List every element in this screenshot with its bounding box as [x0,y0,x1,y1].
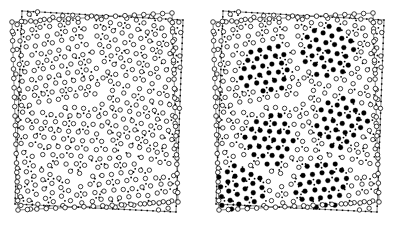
particle [127,153,131,157]
crystalline-particle [252,135,257,140]
crystalline-particle [257,73,262,78]
lattice-dot [72,19,74,21]
particle [63,105,67,109]
particle [116,82,120,86]
particle [158,160,162,164]
lattice-dot [23,66,25,68]
particle [227,87,231,91]
lattice-dot [356,157,358,159]
boundary-square-marker [379,141,381,143]
lattice-dot [31,122,33,124]
crystalline-particle [263,80,268,85]
particle [95,34,99,38]
crystalline-particle [307,180,312,185]
particle [35,34,39,38]
particle [152,108,156,112]
particle [231,125,235,129]
particle [15,22,19,26]
crystalline-particle [239,76,244,81]
crystalline-particle [225,169,230,174]
boundary-square-marker [371,211,373,213]
crystalline-particle [331,118,336,123]
boundary-particle [245,206,250,211]
boundary-particle [176,200,181,205]
particle [134,52,138,56]
particle [304,147,308,151]
lattice-dot [95,20,97,22]
lattice-dot [270,120,272,122]
particle [85,130,89,134]
crystalline-particle [322,187,327,192]
particle [292,174,296,178]
lattice-dot [318,138,320,140]
crystalline-particle [303,59,308,64]
particle [34,85,38,89]
lattice-dot [328,191,330,193]
lattice-dot [233,90,235,92]
boundary-particle [342,12,347,17]
lattice-dot [281,191,283,193]
particle [295,147,299,151]
lattice-dot [77,169,79,171]
lattice-dot [301,163,303,165]
particle [122,163,126,167]
particle [371,137,375,141]
boundary-particle [82,204,87,209]
particle [59,113,63,117]
boundary-square-marker [119,16,121,18]
particle [153,142,157,146]
particle [143,106,147,110]
lattice-dot [155,52,157,54]
particle [80,139,84,143]
particle [359,17,363,21]
crystalline-particle [326,100,331,105]
particle [26,36,30,40]
lattice-dot [232,122,234,124]
crystalline-particle [327,194,332,199]
lattice-dot [341,142,343,144]
lattice-dot [288,126,290,128]
lattice-dot [255,132,257,134]
lattice-dot [32,204,34,206]
particle [61,14,65,18]
crystalline-particle [244,83,249,88]
lattice-dot [120,167,122,169]
lattice-dot [220,94,222,96]
particle [297,165,301,169]
boundary-square-marker [222,10,224,12]
particle [20,110,24,114]
particle [251,41,255,45]
particle [47,163,51,167]
particle [307,70,311,74]
particle [78,86,82,90]
particle [355,176,359,180]
particle [30,28,34,32]
lattice-dot [248,40,250,42]
lattice-dot [24,107,26,109]
particle [142,202,146,206]
particle [130,186,134,190]
boundary-square-marker [221,51,223,53]
lattice-dot [224,200,226,202]
lattice-dot [261,34,263,36]
particle [221,30,225,34]
lattice-dot [375,103,377,105]
crystalline-particle [324,126,329,131]
lattice-dot [45,55,47,57]
boundary-square-marker [147,210,149,212]
particle [159,182,163,186]
lattice-dot [65,92,67,94]
boundary-particle [373,77,378,82]
boundary-square-marker [182,19,184,21]
particle [65,145,69,149]
particle [139,121,143,125]
lattice-dot [113,84,115,86]
particle [81,106,85,110]
boundary-square-marker [178,141,180,143]
lattice-dot [100,38,102,40]
lattice-dot [168,178,170,180]
crystalline-particle [276,145,281,150]
lattice-dot [36,14,38,16]
particle [160,26,164,30]
particle [335,18,339,22]
